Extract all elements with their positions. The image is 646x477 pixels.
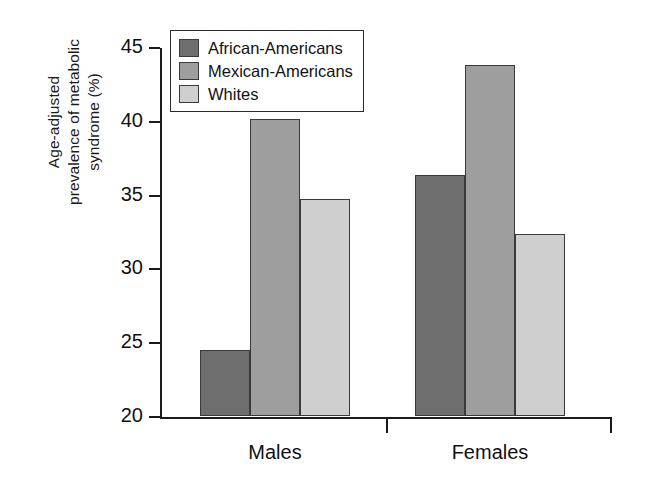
y-axis-title-line-1: Age-adjusted	[44, 76, 64, 169]
x-axis-group-separator-tick	[386, 417, 388, 433]
bar-mexican-americans-males	[250, 119, 300, 416]
bar-chart-figure: Age-adjusted prevalence of metabolic syn…	[0, 0, 646, 477]
y-axis-tick-label: 25	[121, 330, 143, 352]
y-axis-tick-label: 35	[121, 183, 143, 205]
y-axis-tick: 40	[149, 121, 160, 123]
x-axis-group-label-females: Females	[390, 440, 590, 464]
bar-african-americans-males	[200, 350, 250, 416]
y-axis-line	[160, 48, 162, 419]
y-axis-tick: 30	[149, 268, 160, 270]
x-axis-group-separator-tick	[610, 417, 612, 433]
bar-mexican-americans-females	[465, 65, 515, 416]
legend-item: African-Americans	[179, 37, 353, 59]
y-axis-tick-label: 30	[121, 256, 143, 278]
y-axis-tick-label: 40	[121, 109, 143, 131]
y-axis-title-line-2: prevalence of metabolic	[64, 39, 84, 205]
legend-swatch-icon	[179, 62, 199, 80]
y-axis-tick-label: 45	[121, 35, 143, 57]
y-axis-tick: 35	[149, 195, 160, 197]
x-axis-group-label-males: Males	[175, 440, 375, 464]
bar-african-americans-females	[415, 175, 465, 416]
y-axis-tick: 25	[149, 342, 160, 344]
legend: African-AmericansMexican-AmericansWhites	[170, 30, 364, 112]
legend-swatch-icon	[179, 39, 199, 57]
bar-whites-females	[515, 234, 565, 416]
y-axis-title-line-3: syndrome (%)	[84, 73, 104, 171]
bar-whites-males	[300, 199, 350, 416]
y-axis-tick: 45	[149, 47, 160, 49]
y-axis-title: Age-adjusted prevalence of metabolic syn…	[44, 0, 104, 272]
legend-item: Whites	[179, 83, 353, 105]
legend-swatch-icon	[179, 85, 199, 103]
y-axis-tick-label: 20	[121, 404, 143, 426]
legend-item-label: Whites	[208, 85, 258, 103]
legend-item: Mexican-Americans	[179, 60, 353, 82]
legend-item-label: African-Americans	[208, 39, 343, 57]
legend-item-label: Mexican-Americans	[208, 62, 353, 80]
y-axis-tick: 20	[149, 416, 160, 418]
